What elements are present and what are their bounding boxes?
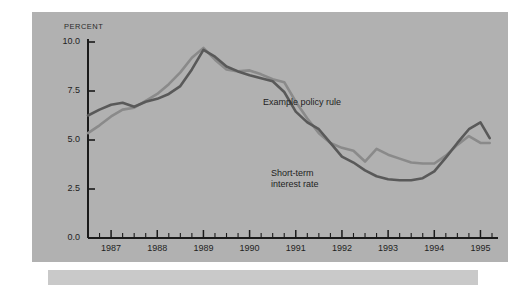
y-tick-label: 2.5 — [46, 183, 80, 193]
x-tick-label: 1991 — [276, 243, 316, 253]
axis-lines — [88, 39, 498, 238]
x-tick-label: 1987 — [91, 243, 131, 253]
y-tick-label: 5.0 — [46, 134, 80, 144]
x-tick-label: 1992 — [322, 243, 362, 253]
x-tick-label: 1988 — [137, 243, 177, 253]
chart-figure: PERCENT 10.07.55.02.50.0 198719881989199… — [0, 0, 525, 285]
series-line-short-term-rate — [88, 50, 490, 180]
axis-ticks — [88, 42, 492, 238]
x-tick-label: 1990 — [230, 243, 270, 253]
lower-caption-bar — [48, 270, 478, 285]
series-lines — [88, 48, 490, 180]
annotation-short-term-interest-rate: Short-term interest rate — [271, 168, 319, 190]
x-tick-label: 1993 — [368, 243, 408, 253]
y-axis-unit-label: PERCENT — [64, 22, 103, 31]
y-tick-label: 0.0 — [46, 232, 80, 242]
y-tick-label: 7.5 — [46, 85, 80, 95]
x-tick-label: 1994 — [414, 243, 454, 253]
x-tick-label: 1995 — [460, 243, 500, 253]
x-tick-label: 1989 — [183, 243, 223, 253]
y-tick-label: 10.0 — [46, 36, 80, 46]
annotation-example-policy-rule: Example policy rule — [263, 97, 341, 108]
